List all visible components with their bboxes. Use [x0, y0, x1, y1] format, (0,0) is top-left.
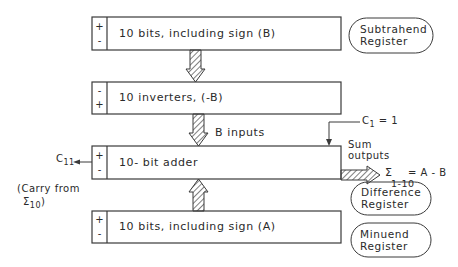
carry-in-label: C1 = 1 [362, 115, 398, 129]
sum-outputs-label: Sum outputs [348, 139, 390, 161]
oval-line-1: Subtrahend [360, 23, 427, 35]
subtrahend-sign-plus: + [92, 22, 107, 32]
minuend-sign-minus: - [92, 229, 107, 239]
sigma-symbol: Σ [23, 196, 30, 207]
minuend-label: 10 bits, including sign (A) [119, 220, 276, 233]
inverters-sign-minus: - [92, 86, 107, 96]
carry-in-value: = 1 [379, 115, 398, 126]
carry-out-label: C11 [56, 153, 75, 167]
sum-range: 1-10 [391, 178, 415, 189]
b-inputs-label: B inputs [215, 126, 265, 139]
sigma-subscript: 10 [30, 201, 41, 210]
adder-sign-minus: - [92, 165, 107, 175]
sum-outputs-line1: Sum [348, 139, 390, 150]
subtrahend-label: 10 bits, including sign (B) [119, 27, 276, 40]
subtrahend-sign-minus: - [92, 36, 107, 46]
carry-in-subscript: 1 [369, 120, 375, 129]
inverters-sign-plus: + [92, 100, 107, 110]
oval-line-2: Register [361, 198, 421, 210]
arrow-down-2-icon [189, 114, 208, 146]
minuend-sign-plus: + [92, 215, 107, 225]
sum-outputs-line2: outputs [348, 150, 390, 161]
carry-note-line2: Σ10) [23, 196, 45, 210]
oval-line-1: Minuend [360, 228, 409, 240]
carry-out-subscript: 11 [63, 158, 74, 167]
sum-result: = A - B [408, 167, 447, 178]
adder-label: 10- bit adder [119, 156, 198, 169]
adder-sign-plus: + [92, 151, 107, 161]
minuend-register-title: Minuend Register [360, 228, 409, 252]
arrow-right-sum-icon [341, 166, 380, 184]
oval-line-2: Register [360, 35, 427, 47]
subtrahend-register-title: Subtrahend Register [360, 23, 427, 47]
carry-note-close: ) [41, 196, 45, 207]
arrow-up-icon [189, 179, 208, 211]
carry-out-line [73, 160, 92, 165]
arrow-down-1-icon [186, 50, 205, 82]
difference-register-title: Difference Register [361, 186, 421, 210]
carry-note-line1: (Carry from [17, 183, 80, 194]
inverters-label: 10 inverters, (-B) [119, 91, 223, 104]
oval-line-2: Register [360, 240, 409, 252]
